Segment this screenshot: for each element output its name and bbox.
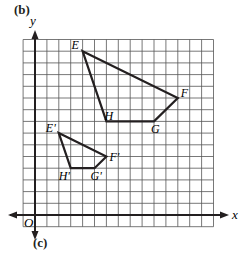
vertex-label: G' bbox=[91, 169, 103, 183]
origin-label: O bbox=[24, 215, 34, 230]
y-axis-arrow-down-icon bbox=[32, 231, 39, 240]
vertex-label: H' bbox=[58, 169, 71, 183]
axes: x y O bbox=[8, 13, 238, 240]
vertex-label: H bbox=[103, 109, 114, 123]
x-axis-arrow-left-icon bbox=[8, 212, 17, 219]
y-axis-arrow-up-icon bbox=[32, 30, 39, 39]
y-axis-label: y bbox=[28, 13, 36, 28]
coordinate-plane: x y O EFGHE'F'G'H' bbox=[0, 0, 246, 256]
vertex-label: E' bbox=[45, 121, 56, 135]
vertex-label: E bbox=[71, 38, 80, 52]
vertex-label: F' bbox=[108, 150, 119, 164]
polygons: EFGHE'F'G'H' bbox=[45, 38, 189, 183]
vertex-label: F bbox=[180, 86, 189, 100]
vertex-label: G bbox=[151, 122, 160, 136]
x-axis-label: x bbox=[231, 207, 238, 222]
x-axis-arrow-right-icon bbox=[220, 212, 229, 219]
